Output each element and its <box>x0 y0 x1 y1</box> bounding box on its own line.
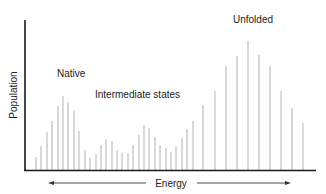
energy-arrow-left <box>48 181 146 185</box>
annotation-native: Native <box>57 68 86 79</box>
annotation-intermediate-states: Intermediate states <box>95 89 180 100</box>
diagram-canvas: Population Native Intermediate states Un… <box>0 0 326 194</box>
arrowhead-left-icon <box>48 181 54 185</box>
population-energy-diagram: Population Native Intermediate states Un… <box>0 0 326 194</box>
arrowhead-right-icon <box>285 181 291 185</box>
y-axis-label: Population <box>8 71 19 118</box>
x-axis-label: Energy <box>155 178 187 189</box>
population-bars <box>36 41 303 170</box>
annotation-unfolded: Unfolded <box>233 14 273 25</box>
energy-arrow-right <box>197 181 291 185</box>
